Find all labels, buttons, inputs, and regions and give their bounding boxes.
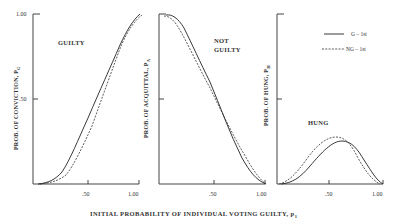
panel-title-not-guilty-2: GUILTY	[214, 46, 241, 53]
legend-label-ng1st: NG – 1st	[346, 46, 366, 52]
curve-guilty-g1st	[38, 14, 140, 184]
legend: G – 1st NG – 1st	[322, 31, 367, 52]
ylabel-guilty: PROB. OF CONVICTION, PG	[13, 66, 21, 150]
panel-title-hung: HUNG	[308, 119, 329, 126]
ylabel-not-guilty: PROB. OF ACQUITTAL, PA	[143, 58, 151, 138]
figure: 1.00 .50 .50 1.00 GUILTY PROB. OF CONVIC…	[0, 0, 393, 223]
xtick-1.00: 1.00	[372, 191, 383, 197]
curve-hung-g1st	[281, 141, 383, 184]
xtick-0.50: .50	[209, 191, 217, 197]
x-axis-title: INITIAL PROBABILITY OF INDIVIDUAL VOTING…	[90, 210, 298, 219]
panel-hung: .50 1.00 HUNG PROB. OF HUNG, PH G – 1st …	[263, 14, 383, 197]
axes-not-guilty	[159, 14, 265, 184]
xtick-0.50: .50	[325, 191, 333, 197]
ylabel-hung: PROB. OF HUNG, PH	[263, 65, 271, 126]
panel-not-guilty: .50 1.00 NOT GUILTY PROB. OF ACQUITTAL, …	[143, 14, 267, 197]
panel-guilty: 1.00 .50 .50 1.00 GUILTY PROB. OF CONVIC…	[13, 11, 142, 197]
xtick-0.50: .50	[82, 191, 90, 197]
panel-title-guilty: GUILTY	[58, 39, 85, 46]
axes-hung	[277, 14, 383, 184]
xtick-1.00: 1.00	[256, 191, 267, 197]
legend-label-g1st: G – 1st	[351, 31, 367, 37]
ytick-1.00: 1.00	[16, 11, 27, 17]
curve-guilty-ng1st	[40, 15, 142, 184]
xtick-1.00: 1.00	[128, 191, 139, 197]
panel-title-not-guilty-1: NOT	[214, 37, 229, 44]
ytick-0.50: .50	[19, 96, 27, 102]
